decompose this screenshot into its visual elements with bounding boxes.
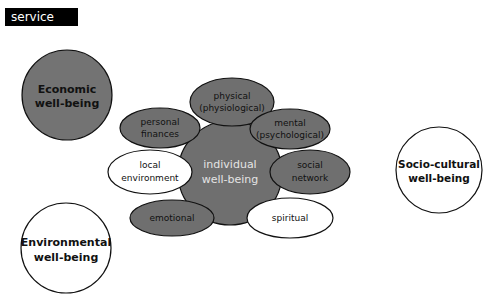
social-network-node: social network: [270, 150, 350, 194]
svg-text:finances: finances: [141, 129, 179, 139]
svg-text:spiritual: spiritual: [272, 213, 308, 223]
economic-well-being-node: Economic well-being: [22, 50, 112, 140]
environmental-well-being-node: Environmental well-being: [21, 203, 111, 293]
svg-text:emotional: emotional: [149, 213, 194, 223]
svg-text:Environmental: Environmental: [21, 236, 111, 249]
svg-text:well-being: well-being: [408, 172, 470, 184]
svg-text:local: local: [140, 160, 161, 170]
svg-text:well-being: well-being: [34, 251, 99, 264]
personal-finances-node: personal finances: [120, 108, 200, 148]
svg-text:personal: personal: [141, 117, 180, 127]
svg-text:environment: environment: [121, 173, 179, 183]
svg-text:Socio-cultural: Socio-cultural: [398, 158, 480, 170]
svg-text:individual: individual: [203, 158, 256, 171]
svg-text:(psychological): (psychological): [256, 130, 324, 140]
svg-text:Economic: Economic: [38, 83, 97, 96]
mental-node: mental (psychological): [250, 109, 330, 149]
svg-text:mental: mental: [274, 118, 306, 128]
svg-text:physical: physical: [214, 91, 251, 101]
svg-text:network: network: [292, 173, 329, 183]
svg-text:well-being: well-being: [35, 97, 100, 110]
svg-text:well-being: well-being: [202, 173, 259, 186]
local-environment-node: local environment: [108, 150, 192, 194]
svg-text:social: social: [297, 160, 323, 170]
wellbeing-diagram: Economic well-being Socio-cultural well-…: [0, 0, 497, 307]
socio-cultural-well-being-node: Socio-cultural well-being: [396, 127, 482, 213]
svg-text:(physiological): (physiological): [199, 103, 265, 113]
emotional-node: emotional: [130, 200, 214, 236]
spiritual-node: spiritual: [247, 198, 333, 238]
